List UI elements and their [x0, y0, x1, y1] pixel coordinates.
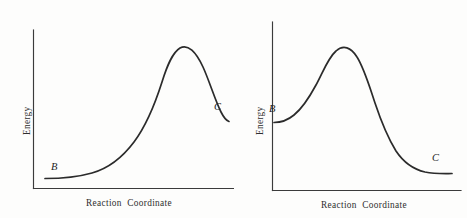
exothermic-reaction-coordinate-diagram: Reaction Coordinate Energy B C	[233, 0, 467, 218]
reactant-point-label-b: B	[51, 161, 57, 172]
y-axis-label: Energy	[255, 107, 265, 135]
endothermic-reaction-coordinate-diagram: Reaction Coordinate Energy B C	[0, 0, 234, 218]
energy-profile-curve	[274, 47, 452, 173]
x-axis-label: Reaction Coordinate	[321, 200, 407, 210]
product-point-label-c: C	[214, 101, 221, 112]
reaction-coordinate-figure: Reaction Coordinate Energy B C Reaction …	[0, 0, 467, 218]
energy-profile-curve	[45, 47, 229, 179]
product-point-label-c: C	[432, 152, 439, 163]
y-axis-label: Energy	[22, 107, 32, 135]
reactant-point-label-b: B	[269, 103, 275, 114]
x-axis-label: Reaction Coordinate	[86, 198, 172, 208]
